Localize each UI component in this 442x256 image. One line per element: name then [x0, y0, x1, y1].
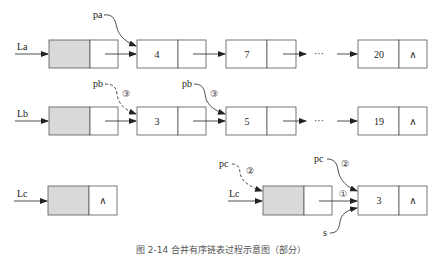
svg-text:4: 4 [155, 49, 160, 60]
step-1-mark: ① [339, 189, 347, 199]
la-node-20: 20 ∧ [358, 40, 427, 68]
linked-list-diagram: La pa 4 7 ··· 20 [0, 0, 442, 256]
lb-node-19: 19 ∧ [358, 107, 427, 135]
pc-label-1: pc [219, 158, 229, 169]
svg-text:7: 7 [245, 49, 250, 60]
lb-node-5: 5 [226, 107, 306, 135]
lc-node-3: 3 ∧ [358, 186, 427, 215]
lb-head-node [49, 107, 136, 135]
lb-node-3: 3 [137, 107, 225, 135]
lb-ellipsis: ··· [314, 115, 324, 126]
null-symbol: ∧ [409, 49, 416, 60]
lc-head-node: ∧ [48, 186, 117, 215]
la-label: La [17, 41, 28, 52]
figure-caption: 图 2-14 合并有序链表过程示意图（部分） [0, 243, 442, 256]
pc-label-2: pc [314, 153, 324, 164]
step-3-mark-1: ③ [122, 89, 130, 99]
list-lc-initial: Lc ∧ [14, 186, 117, 215]
null-symbol: ∧ [99, 195, 106, 206]
svg-text:3: 3 [377, 195, 382, 206]
step-3-mark-2: ③ [210, 89, 218, 99]
la-head-node [49, 40, 136, 68]
list-la: La pa 4 7 ··· 20 [15, 9, 427, 68]
pa-label: pa [93, 9, 103, 20]
lc-label: Lc [17, 188, 28, 199]
list-lb: Lb pb ③ 3 pb ③ 5 ··· [15, 78, 427, 135]
lb-label: Lb [17, 108, 28, 119]
pb-label-2: pb [182, 78, 192, 89]
pb-label-1: pb [93, 78, 103, 89]
svg-text:19: 19 [374, 116, 384, 127]
la-ellipsis: ··· [314, 48, 324, 59]
list-lc-after: pc ② Lc ① pc ② s 3 ∧ [219, 153, 427, 238]
svg-text:3: 3 [155, 116, 160, 127]
la-node-4: 4 [137, 40, 225, 68]
svg-text:20: 20 [374, 49, 384, 60]
s-label: s [323, 227, 327, 238]
lc-label-after: Lc [229, 188, 240, 199]
null-symbol: ∧ [409, 116, 416, 127]
svg-text:5: 5 [245, 116, 250, 127]
step-2-mark-2: ② [341, 159, 349, 169]
null-symbol: ∧ [409, 195, 416, 206]
la-node-7: 7 [226, 40, 306, 68]
step-2-mark-1: ② [246, 166, 254, 176]
